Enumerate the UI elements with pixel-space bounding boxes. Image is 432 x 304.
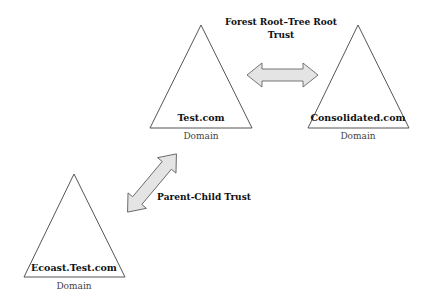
- trust-label-forest-root-tree-root: Forest Root–Tree Root Trust: [225, 16, 337, 42]
- domain-name-consolidated: Consolidated.com: [310, 112, 405, 123]
- domain-type-test: Domain: [183, 131, 218, 141]
- diagram-shapes: [0, 0, 432, 304]
- trust-label-line2: Trust: [225, 29, 337, 42]
- domain-type-consolidated: Domain: [340, 131, 375, 141]
- trust-label-parent-child: Parent-Child Trust: [157, 191, 251, 204]
- double-arrow-icon-parent-child-trust: [118, 146, 185, 220]
- domain-type-ecoast: Domain: [56, 281, 91, 291]
- domain-name-ecoast: Ecoast.Test.com: [31, 262, 117, 273]
- trust-label-line1: Forest Root–Tree Root: [225, 16, 337, 29]
- trust-diagram: Test.com Domain Consolidated.com Domain …: [0, 0, 432, 304]
- double-arrow-icon-forest-trust: [247, 63, 318, 87]
- domain-name-test: Test.com: [177, 112, 224, 123]
